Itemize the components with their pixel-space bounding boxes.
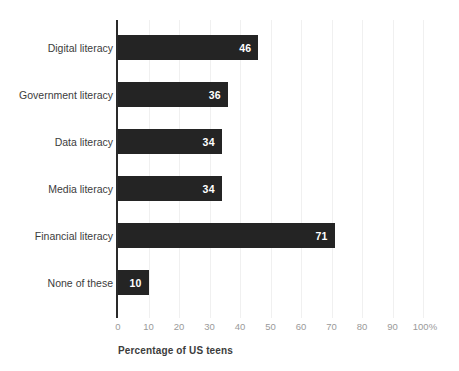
bar: 10 (118, 270, 149, 295)
bar-value-label: 10 (129, 277, 141, 288)
x-tick-label: 50 (265, 322, 276, 332)
x-tick-label: 80 (357, 322, 368, 332)
x-tick-label: 0 (115, 322, 120, 332)
bar: 71 (118, 223, 335, 248)
bar: 46 (118, 35, 258, 60)
gridline (210, 20, 211, 318)
category-label: Financial literacy (5, 230, 113, 241)
gridline (301, 20, 302, 318)
x-tick-label: 30 (204, 322, 215, 332)
gridline (362, 20, 363, 318)
category-label: Digital literacy (5, 42, 113, 53)
category-label: Government literacy (5, 89, 113, 100)
plot-area: 463634347110 (118, 20, 423, 318)
bar-chart: 463634347110 Digital literacyGovernment … (0, 0, 459, 371)
bar-value-label: 34 (203, 183, 215, 194)
x-tick-label: 20 (174, 322, 185, 332)
bar: 34 (118, 129, 222, 154)
gridline (240, 20, 241, 318)
category-labels-group: Digital literacyGovernment literacyData … (0, 0, 113, 371)
bar: 34 (118, 176, 222, 201)
x-tick-label: 60 (296, 322, 307, 332)
bar-value-label: 46 (239, 42, 251, 53)
x-tick-label: 90 (387, 322, 398, 332)
bar-value-label: 34 (203, 136, 215, 147)
bar-value-label: 71 (315, 230, 327, 241)
gridline (271, 20, 272, 318)
gridline (149, 20, 150, 318)
x-tick-label: 10 (143, 322, 154, 332)
category-label: Media literacy (5, 183, 113, 194)
gridline (393, 20, 394, 318)
x-tick-label: 70 (326, 322, 337, 332)
gridline (423, 20, 424, 318)
category-label: None of these (5, 277, 113, 288)
gridline (332, 20, 333, 318)
x-tick-label: 100% (413, 322, 437, 332)
bar-value-label: 36 (209, 89, 221, 100)
x-axis-title: Percentage of US teens (118, 345, 233, 356)
y-axis-line (116, 20, 118, 318)
bar: 36 (118, 82, 228, 107)
x-tick-label: 40 (235, 322, 246, 332)
gridline (179, 20, 180, 318)
category-label: Data literacy (5, 136, 113, 147)
